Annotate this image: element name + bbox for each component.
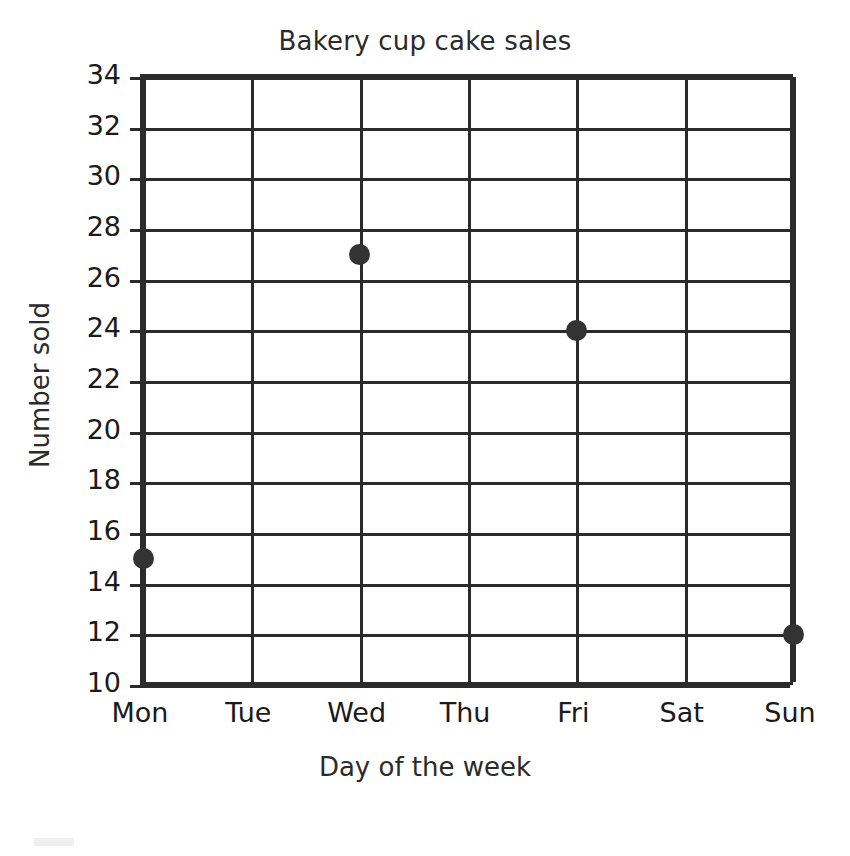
y-axis-tick [130,584,143,587]
gridline-horizontal [143,432,790,435]
y-axis-tick-label: 16 [51,517,121,544]
x-axis-title: Day of the week [0,752,850,782]
gridline-vertical [251,77,254,682]
chart-container: Bakery cup cake sales 101214161820222426… [0,0,850,856]
y-axis-tick [130,482,143,485]
gridline-horizontal [143,330,790,333]
chart-title: Bakery cup cake sales [0,26,850,56]
gridline-vertical [360,77,363,682]
gridline-horizontal [143,77,790,80]
y-axis-tick-label: 32 [51,112,121,139]
y-axis-tick-label: 20 [51,416,121,443]
y-axis-tick-label: 12 [51,618,121,645]
scan-artifact [34,838,74,846]
y-axis-tick [130,280,143,283]
data-point [133,548,154,569]
x-axis-tick-label: Sun [720,699,850,726]
y-axis-tick-label: 22 [51,365,121,392]
gridline-horizontal [143,178,790,181]
y-axis-tick [130,229,143,232]
gridline-horizontal [143,634,790,637]
y-axis-tick-labels: 10121416182022242628303234 [45,74,121,685]
data-point [566,320,587,341]
y-axis-tick [130,533,143,536]
gridline-vertical [468,77,471,682]
y-axis-tick-label: 34 [51,61,121,88]
gridline-horizontal [143,128,790,131]
y-axis-tick-label: 30 [51,162,121,189]
y-axis-tick [130,432,143,435]
gridline-horizontal [143,229,790,232]
gridline-horizontal [143,381,790,384]
x-axis-tick-labels: MonTueWedThuFriSatSun [140,699,793,739]
y-axis-tick-label: 26 [51,264,121,291]
y-axis-tick [130,381,143,384]
plot-area [140,74,793,685]
gridline-horizontal [143,482,790,485]
y-axis-tick-label: 28 [51,213,121,240]
gridline-vertical [685,77,688,682]
data-point [783,624,804,645]
gridline-horizontal [143,280,790,283]
gridline-horizontal [143,685,790,688]
y-axis-tick-label: 18 [51,466,121,493]
y-axis-tick [130,77,143,80]
gridline-horizontal [143,533,790,536]
y-axis-tick [130,330,143,333]
data-point [349,244,370,265]
gridline-vertical [793,77,796,682]
y-axis-tick [130,178,143,181]
gridline-horizontal [143,584,790,587]
y-axis-tick-label: 10 [51,669,121,696]
y-axis-tick [130,128,143,131]
gridline-vertical [576,77,579,682]
gridline-vertical [143,77,146,682]
y-axis-title: Number sold [25,285,55,485]
y-axis-tick-label: 24 [51,314,121,341]
y-axis-tick-label: 14 [51,568,121,595]
y-axis-tick [130,685,143,688]
y-axis-tick [130,634,143,637]
